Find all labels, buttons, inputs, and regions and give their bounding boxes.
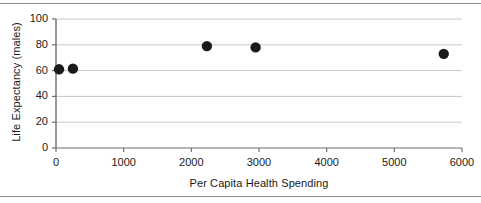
y-tick-label: 0 [14,141,48,153]
x-tick-label: 6000 [439,156,481,168]
y-tick-label: 60 [14,64,48,76]
data-point[interactable] [250,42,260,52]
data-point-group [54,41,449,75]
data-point[interactable] [68,63,78,73]
grid-lines [56,19,462,122]
y-tick-label: 40 [14,89,48,101]
y-tick-label: 80 [14,38,48,50]
x-tick-marks [56,148,462,152]
y-tick-label: 20 [14,115,48,127]
data-point[interactable] [439,49,449,59]
x-tick-label: 5000 [371,156,417,168]
chart-figure: Life Expectancy (males) Per Capita Healt… [0,0,481,203]
x-tick-label: 0 [33,156,79,168]
y-tick-label: 100 [14,12,48,24]
data-point[interactable] [202,41,212,51]
x-tick-label: 3000 [236,156,282,168]
x-tick-label: 2000 [168,156,214,168]
data-point[interactable] [54,64,64,74]
x-tick-label: 4000 [304,156,350,168]
x-tick-label: 1000 [101,156,147,168]
scatter-plot-canvas [0,0,481,203]
